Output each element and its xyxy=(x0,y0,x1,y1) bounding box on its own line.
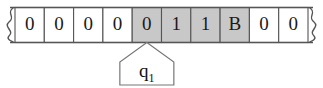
tape-cell-symbol-3: 0 xyxy=(113,13,123,34)
tape-cell-symbol-1: 0 xyxy=(54,13,64,34)
tape-cell-symbol-2: 0 xyxy=(84,13,94,34)
tape-head-pointer: q1 xyxy=(120,43,174,86)
tape-cell-symbol-9: 0 xyxy=(289,13,299,34)
tape-cell-symbol-0: 0 xyxy=(25,13,35,34)
turing-machine-tape-diagram: 0000011B00 q1 xyxy=(0,0,323,88)
tape-cell-symbol-4: 0 xyxy=(142,13,152,34)
tape-cell-symbol-7: B xyxy=(228,13,241,34)
tape-left-continuation-squiggle-icon xyxy=(7,8,13,42)
tape-cell-symbol-5: 1 xyxy=(171,13,181,34)
tape-cell-symbol-8: 0 xyxy=(259,13,269,34)
tape-canvas: 0000011B00 q1 xyxy=(0,0,323,88)
tape-right-continuation-squiggle-icon xyxy=(310,8,316,42)
tape-cells-group: 0000011B00 xyxy=(15,8,308,43)
tape-cell-symbol-6: 1 xyxy=(201,13,211,34)
